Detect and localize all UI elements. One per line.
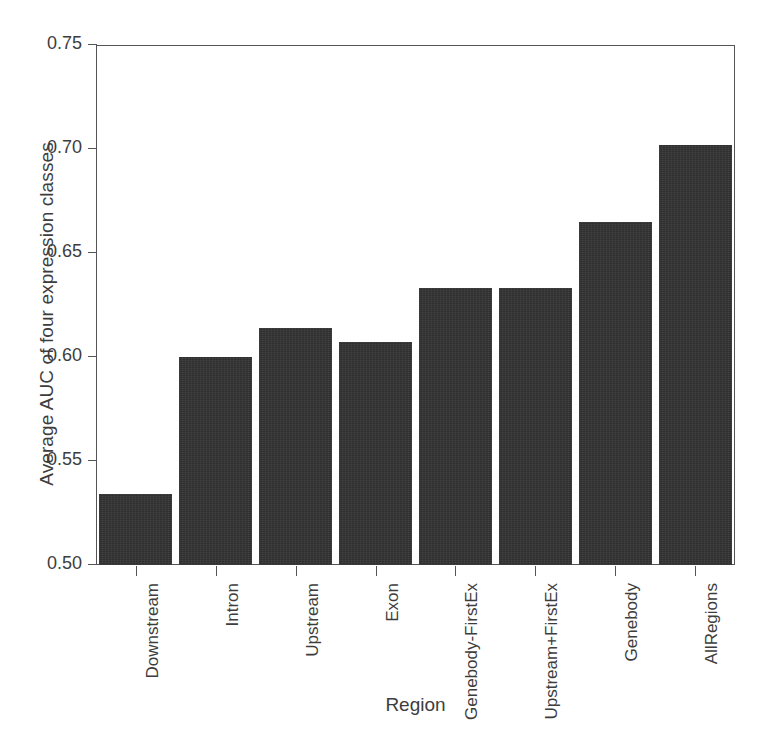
x-axis-tick-label: AllRegions bbox=[702, 583, 722, 664]
bar bbox=[99, 494, 172, 565]
y-axis-tick-label: 0.60 bbox=[0, 345, 82, 366]
y-axis-tick-label: 0.65 bbox=[0, 241, 82, 262]
x-axis-tick-label: Downstream bbox=[143, 583, 163, 678]
y-axis-tick-label: 0.70 bbox=[0, 137, 82, 158]
x-axis-tick-mark bbox=[376, 566, 377, 576]
x-axis-tick-label: Intron bbox=[223, 583, 243, 626]
x-axis-tick-mark bbox=[296, 566, 297, 576]
y-axis-tick-mark bbox=[88, 148, 97, 149]
y-axis-tick-mark bbox=[88, 356, 97, 357]
x-axis-tick-label: Exon bbox=[383, 583, 403, 622]
y-axis-tick-mark bbox=[88, 460, 97, 461]
y-axis-tick-label: 0.50 bbox=[0, 553, 82, 574]
bar bbox=[179, 357, 252, 565]
x-axis-title: Region bbox=[96, 694, 735, 716]
y-axis-tick-mark bbox=[88, 252, 97, 253]
bar bbox=[579, 222, 652, 565]
bar bbox=[339, 342, 412, 565]
bar-chart-figure: Average AUC of four expression classes 0… bbox=[0, 0, 771, 747]
bar bbox=[659, 145, 732, 565]
x-axis-tick-mark bbox=[136, 566, 137, 576]
y-axis-tick-mark bbox=[88, 44, 97, 45]
x-axis-tick-label: Upstream bbox=[303, 583, 323, 657]
y-axis-tick-label: 0.55 bbox=[0, 449, 82, 470]
y-axis-tick-mark bbox=[88, 564, 97, 565]
x-axis-tick-mark bbox=[455, 566, 456, 576]
x-axis-tick-label: Genebody bbox=[622, 583, 642, 661]
x-axis-tick-mark bbox=[216, 566, 217, 576]
bar bbox=[259, 328, 332, 565]
y-axis-title: Average AUC of four expression classes bbox=[36, 54, 58, 574]
bar bbox=[499, 288, 572, 565]
x-axis-tick-mark bbox=[695, 566, 696, 576]
y-axis-tick-label: 0.75 bbox=[0, 33, 82, 54]
x-axis-tick-mark bbox=[535, 566, 536, 576]
x-axis-tick-mark bbox=[615, 566, 616, 576]
bar bbox=[419, 288, 492, 565]
